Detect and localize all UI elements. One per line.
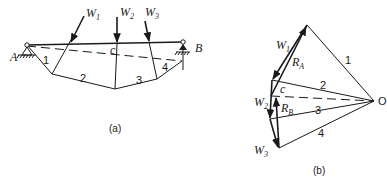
support-a-label: A (9, 50, 18, 64)
w3-arrow-icon (145, 21, 149, 41)
w3-label: W3 (145, 5, 159, 21)
w1-action-line (52, 38, 72, 74)
beam-line (27, 42, 183, 45)
support-b-label: B (195, 41, 203, 55)
w2-vector-icon (270, 80, 272, 118)
funicular-polygon (27, 45, 182, 89)
closing-line (27, 46, 182, 61)
figure-b: W1 RA W2 RB W3 c 1 2 3 4 O (b) (254, 25, 387, 176)
closing-ray-label: c (280, 82, 286, 96)
w1-force-label: W1 (276, 38, 290, 54)
segment-3-label: 3 (136, 74, 142, 86)
ray-4-label: 4 (318, 127, 324, 139)
w2-label: W2 (120, 5, 134, 21)
w1-arrow-icon (71, 16, 84, 42)
closing-line-label: c (110, 43, 116, 57)
w1-label: W1 (86, 6, 100, 22)
figure-a: A B W1 W2 W3 c 1 2 3 4 (a) (9, 5, 203, 134)
diagram-canvas: A B W1 W2 W3 c 1 2 3 4 (a) W1 RA W2 RB W… (0, 0, 387, 193)
caption-b: (b) (313, 165, 325, 176)
segment-2-label: 2 (80, 72, 86, 84)
ray-3-label: 3 (315, 104, 321, 116)
ray-1-label: 1 (345, 54, 351, 66)
segment-1-label: 1 (43, 54, 49, 66)
ra-label: RA (291, 55, 304, 71)
ray-4 (279, 101, 374, 148)
w3-force-label: W3 (254, 143, 268, 159)
caption-a: (a) (109, 123, 121, 134)
w3-action-line (149, 42, 157, 79)
w2-force-label: W2 (254, 95, 268, 111)
pole-label: O (378, 95, 387, 107)
rb-label: RB (280, 101, 293, 117)
ray-2-label: 2 (320, 79, 326, 91)
segment-4-label: 4 (162, 61, 168, 73)
